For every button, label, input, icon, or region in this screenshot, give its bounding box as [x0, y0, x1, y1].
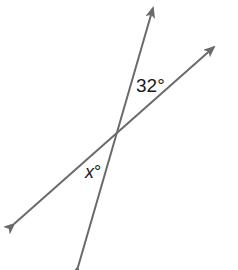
degree-symbol: °: [94, 162, 101, 182]
lines-canvas: [0, 0, 238, 270]
shallow-line: [14, 47, 214, 224]
known-angle-label: 32°: [136, 76, 165, 95]
steep-line: [78, 8, 153, 267]
unknown-angle-label: x°: [85, 163, 101, 181]
intersecting-lines-diagram: 32° x°: [0, 0, 238, 270]
known-angle-value: 32°: [136, 75, 165, 96]
unknown-angle-variable: x: [85, 162, 94, 182]
